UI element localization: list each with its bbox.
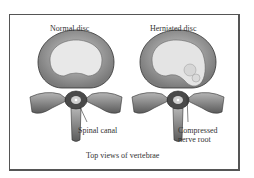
normal-vertebra xyxy=(30,30,122,142)
herniated-vertebra xyxy=(132,30,224,142)
compressed-label-line2: nerve root xyxy=(178,135,211,144)
spinal-canal-label: Spinal canal xyxy=(78,126,117,135)
compressed-label-line1: Compressed xyxy=(178,126,218,135)
herniated-disc-title: Herniated disc xyxy=(150,24,196,33)
figure-caption: Top views of vertebrae xyxy=(86,151,159,160)
normal-disc-title: Normal disc xyxy=(50,24,89,33)
